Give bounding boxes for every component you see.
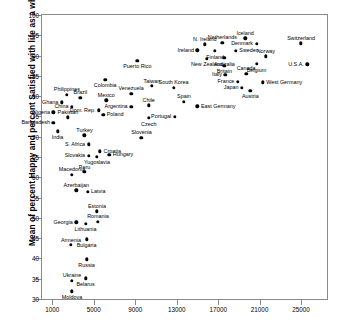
data-point bbox=[97, 109, 100, 112]
data-point-label: Argentina bbox=[105, 104, 128, 109]
data-point-label: Russia bbox=[78, 263, 94, 268]
data-point-label: Denmark bbox=[231, 41, 253, 46]
data-point-label: Austria bbox=[242, 94, 259, 99]
data-point-label: Belgium bbox=[247, 68, 266, 73]
x-tick-label: 17000 bbox=[209, 306, 227, 313]
data-point bbox=[66, 116, 69, 119]
data-point bbox=[147, 104, 150, 107]
data-point-label: Finland bbox=[206, 55, 224, 60]
data-point bbox=[203, 43, 206, 46]
y-tick-label: 65 bbox=[32, 154, 39, 161]
data-point bbox=[306, 63, 309, 66]
data-point bbox=[84, 222, 87, 225]
x-tick bbox=[218, 299, 219, 305]
data-point bbox=[255, 62, 258, 65]
data-point bbox=[105, 98, 108, 101]
data-point-label: China bbox=[54, 104, 68, 109]
scatter-chart: Mean of percent Happy and percent Satisf… bbox=[0, 0, 340, 327]
y-tick-label: 40 bbox=[32, 255, 39, 262]
data-point bbox=[261, 81, 264, 84]
data-point bbox=[196, 49, 199, 52]
y-tick-label: 30 bbox=[32, 296, 39, 303]
data-point bbox=[140, 136, 143, 139]
data-point bbox=[101, 113, 104, 116]
data-point-label: Chile bbox=[143, 98, 155, 103]
data-point bbox=[249, 89, 252, 92]
x-tick-label: 5000 bbox=[87, 306, 101, 313]
data-point-label: S. Africa bbox=[65, 142, 85, 147]
data-point-label: Spain bbox=[177, 94, 191, 99]
data-point bbox=[108, 153, 111, 156]
data-point-label: Ukraine bbox=[63, 273, 82, 278]
data-point bbox=[85, 258, 88, 261]
x-tick-label: 13000 bbox=[168, 306, 186, 313]
data-point bbox=[85, 238, 88, 241]
x-tick bbox=[94, 299, 95, 305]
data-point bbox=[221, 41, 224, 44]
x-tick-label: 1000 bbox=[45, 306, 59, 313]
y-tick-label: 50 bbox=[32, 214, 39, 221]
data-point-label: Czech bbox=[141, 122, 156, 127]
data-point bbox=[52, 121, 55, 124]
y-tick-label: 80 bbox=[32, 93, 39, 100]
data-point-label: Dom. Rep. bbox=[70, 108, 96, 113]
data-point bbox=[150, 84, 153, 87]
x-tick bbox=[52, 299, 53, 305]
data-point-label: Lithuania bbox=[75, 227, 97, 232]
data-point-label: Norway bbox=[257, 49, 275, 54]
x-tick-label: 21000 bbox=[251, 306, 269, 313]
data-point bbox=[136, 59, 139, 62]
data-point bbox=[70, 290, 73, 293]
y-tick-label: 90 bbox=[32, 52, 39, 59]
data-point bbox=[56, 130, 59, 133]
data-point bbox=[299, 42, 302, 45]
y-tick-label: 95 bbox=[32, 32, 39, 39]
y-tick-label: 60 bbox=[32, 174, 39, 181]
data-point-label: Japan bbox=[224, 85, 239, 90]
data-point bbox=[104, 78, 107, 81]
data-point bbox=[70, 279, 73, 282]
data-point bbox=[83, 170, 86, 173]
data-point-label: East Germany bbox=[201, 104, 235, 109]
x-tick bbox=[301, 299, 302, 305]
data-point-label: Puerto Rico bbox=[123, 64, 151, 69]
x-tick bbox=[177, 299, 178, 305]
data-point bbox=[74, 221, 77, 224]
data-point bbox=[79, 96, 82, 99]
data-point-label: Nigeria bbox=[33, 110, 50, 115]
x-tick-label: 25000 bbox=[292, 306, 310, 313]
data-point-label: Azerbaijan bbox=[63, 183, 88, 188]
data-point-label: Bangladesh bbox=[21, 120, 49, 125]
x-tick bbox=[135, 299, 136, 305]
data-point bbox=[173, 115, 176, 118]
data-point bbox=[129, 105, 132, 108]
data-point-label: Brazil bbox=[74, 90, 87, 95]
data-point-label: Mexico bbox=[98, 93, 115, 98]
data-point-label: India bbox=[52, 135, 64, 140]
data-point-label: Turkey bbox=[76, 128, 92, 133]
data-point-label: Switzerland bbox=[287, 36, 315, 41]
data-point bbox=[172, 86, 175, 89]
data-point-label: Poland bbox=[107, 112, 124, 117]
data-point-label: Slovakia bbox=[65, 153, 85, 158]
data-point bbox=[255, 42, 258, 45]
data-point bbox=[87, 154, 90, 157]
data-point-label: Belarus bbox=[76, 282, 94, 287]
data-point bbox=[95, 155, 98, 158]
y-tick-label: 45 bbox=[32, 235, 39, 242]
data-point bbox=[234, 49, 237, 52]
data-point bbox=[147, 116, 150, 119]
data-point bbox=[52, 111, 55, 114]
y-tick-label: 100 bbox=[28, 12, 39, 19]
data-point bbox=[74, 189, 77, 192]
data-point-label: Estonia bbox=[88, 204, 106, 209]
x-tick bbox=[260, 299, 261, 305]
data-point-label: Portugal bbox=[151, 114, 171, 119]
y-tick-label: 70 bbox=[32, 133, 39, 140]
data-point-label: Venezuela bbox=[119, 86, 144, 91]
data-point bbox=[87, 143, 90, 146]
data-point bbox=[223, 56, 226, 59]
data-point bbox=[196, 105, 199, 108]
data-point bbox=[182, 100, 185, 103]
data-point-label: Latvia bbox=[91, 189, 105, 194]
